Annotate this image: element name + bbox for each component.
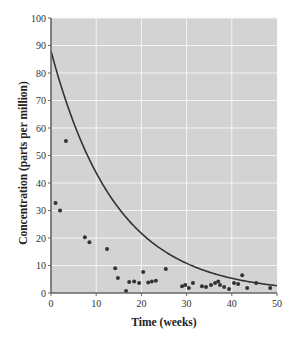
y-tick-label: 10 xyxy=(36,260,46,271)
data-point xyxy=(209,283,213,287)
data-point xyxy=(146,281,150,285)
data-point xyxy=(141,270,145,274)
data-point xyxy=(87,240,91,244)
data-point xyxy=(137,281,141,285)
data-point xyxy=(127,280,131,284)
y-tick-label: 70 xyxy=(36,95,46,106)
data-point xyxy=(83,235,87,239)
y-tick-label: 30 xyxy=(36,205,46,216)
data-point xyxy=(232,281,236,285)
chart: 0102030405060708090100 01020304050 Time … xyxy=(0,0,295,341)
y-tick-label: 0 xyxy=(41,288,46,299)
y-tick-label: 40 xyxy=(36,178,46,189)
y-tick-label: 90 xyxy=(36,40,46,51)
x-tick-label: 10 xyxy=(91,298,101,309)
y-tick-label: 60 xyxy=(36,123,46,134)
x-tick-label: 50 xyxy=(272,298,282,309)
x-tick-label: 30 xyxy=(182,298,192,309)
data-point xyxy=(54,201,58,205)
data-point xyxy=(187,286,191,290)
data-point xyxy=(64,139,68,143)
data-point xyxy=(183,283,187,287)
data-point xyxy=(222,285,226,289)
data-point xyxy=(154,279,158,283)
data-point xyxy=(164,267,168,271)
y-axis-label: Concentration (parts per million) xyxy=(17,81,30,245)
data-point xyxy=(113,266,117,270)
data-point xyxy=(216,279,220,283)
data-point xyxy=(150,279,154,283)
data-point xyxy=(58,209,62,213)
y-axis-ticks: 0102030405060708090100 xyxy=(31,13,51,299)
data-point xyxy=(105,247,109,251)
data-point xyxy=(227,287,231,291)
x-tick-label: 0 xyxy=(49,298,54,309)
data-point xyxy=(132,279,136,283)
data-point xyxy=(254,281,258,285)
data-point xyxy=(200,284,204,288)
y-tick-label: 20 xyxy=(36,233,46,244)
y-tick-label: 80 xyxy=(36,68,46,79)
data-point xyxy=(245,286,249,290)
data-point xyxy=(240,273,244,277)
y-tick-label: 50 xyxy=(36,150,46,161)
data-point xyxy=(268,286,272,290)
data-point xyxy=(204,285,208,289)
x-axis-label: Time (weeks) xyxy=(131,316,196,329)
data-point xyxy=(236,282,240,286)
y-tick-label: 100 xyxy=(31,13,46,24)
x-tick-label: 20 xyxy=(136,298,146,309)
data-point xyxy=(218,283,222,287)
data-point xyxy=(191,281,195,285)
x-axis-ticks: 01020304050 xyxy=(49,293,283,309)
data-point xyxy=(116,276,120,280)
x-tick-label: 40 xyxy=(227,298,237,309)
